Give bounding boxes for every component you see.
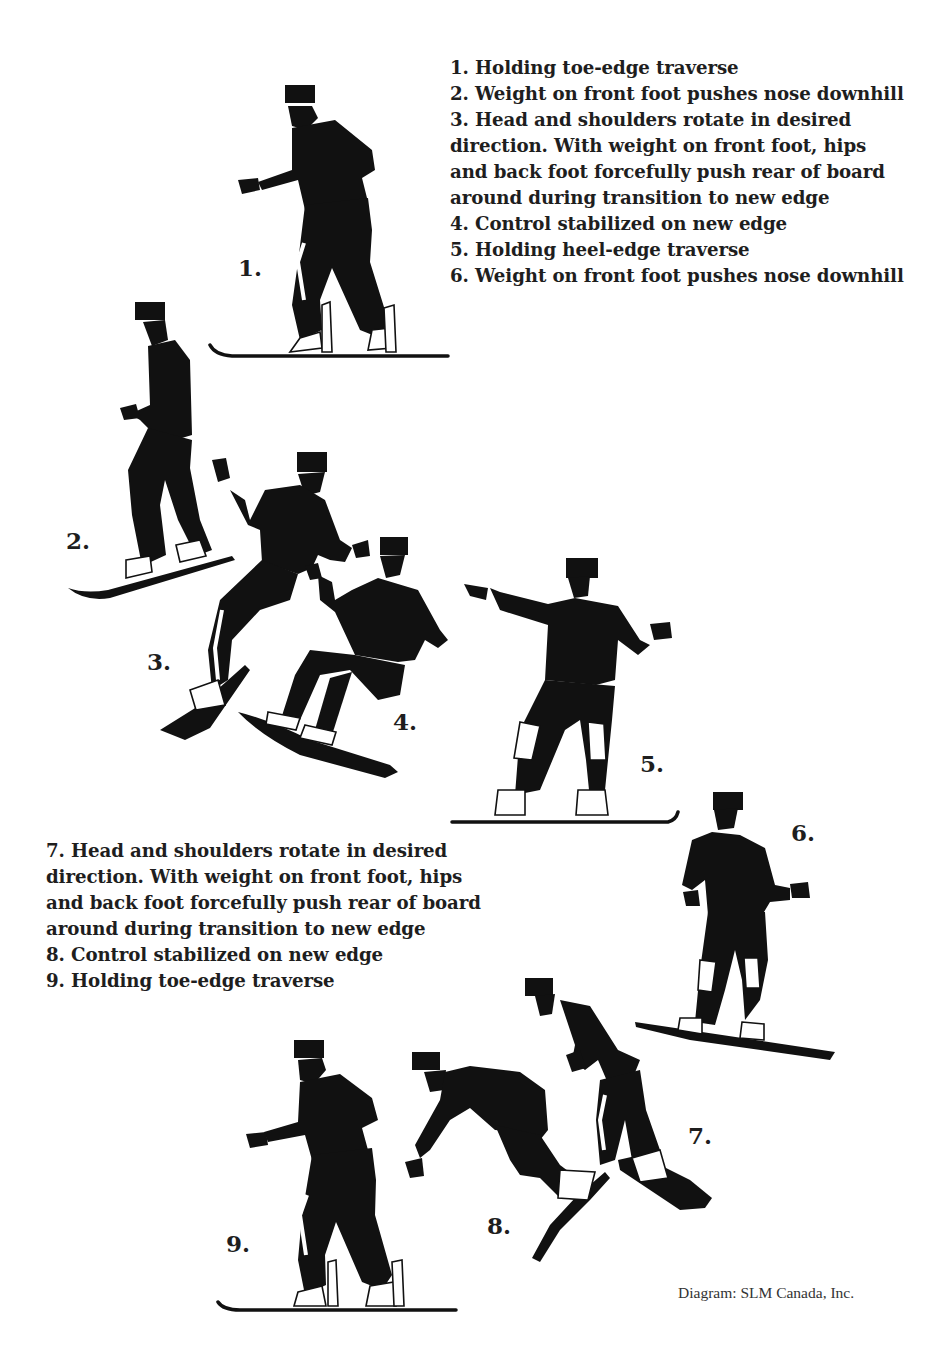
caption-line: direction. With weight on front foot, hi… bbox=[46, 864, 481, 890]
step-label-5: 5. bbox=[640, 750, 664, 777]
step-label-1: 1. bbox=[238, 254, 262, 281]
caption-line: 6. Weight on front foot pushes nose down… bbox=[450, 263, 904, 289]
caption-line: direction. With weight on front foot, hi… bbox=[450, 133, 904, 159]
captions-steps-1-6: 1. Holding toe-edge traverse 2. Weight o… bbox=[450, 55, 904, 289]
captions-steps-7-9: 7. Head and shoulders rotate in desired … bbox=[46, 838, 481, 994]
step-label-4: 4. bbox=[393, 708, 417, 735]
caption-line: around during transition to new edge bbox=[450, 185, 904, 211]
caption-line: 2. Weight on front foot pushes nose down… bbox=[450, 81, 904, 107]
caption-line: 8. Control stabilized on new edge bbox=[46, 942, 481, 968]
caption-line: 5. Holding heel-edge traverse bbox=[450, 237, 904, 263]
step-label-2: 2. bbox=[66, 527, 90, 554]
caption-line: 9. Holding toe-edge traverse bbox=[46, 968, 481, 994]
snowboarder-figure-1 bbox=[210, 85, 448, 356]
caption-line: and back foot forcefully push rear of bo… bbox=[450, 159, 904, 185]
diagram-credit: Diagram: SLM Canada, Inc. bbox=[678, 1284, 854, 1302]
step-label-8: 8. bbox=[487, 1212, 511, 1239]
caption-line: 3. Head and shoulders rotate in desired bbox=[450, 107, 904, 133]
step-label-9: 9. bbox=[226, 1230, 250, 1257]
caption-line: 1. Holding toe-edge traverse bbox=[450, 55, 904, 81]
step-label-3: 3. bbox=[147, 648, 171, 675]
step-label-6: 6. bbox=[791, 819, 815, 846]
snowboarder-figure-5 bbox=[452, 558, 678, 822]
caption-line: around during transition to new edge bbox=[46, 916, 481, 942]
caption-line: 4. Control stabilized on new edge bbox=[450, 211, 904, 237]
caption-line: 7. Head and shoulders rotate in desired bbox=[46, 838, 481, 864]
step-label-7: 7. bbox=[688, 1122, 712, 1149]
caption-line: and back foot forcefully push rear of bo… bbox=[46, 890, 481, 916]
